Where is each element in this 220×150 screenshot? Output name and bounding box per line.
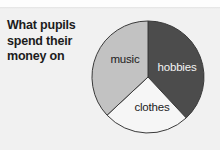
page-top-shadow bbox=[0, 7, 220, 9]
pie-slices bbox=[92, 21, 204, 133]
chart-title-line-1: What pupils bbox=[7, 18, 91, 34]
chart-screenshot: What pupils spend their money on hobbies… bbox=[0, 0, 220, 150]
pie-label-hobbies: hobbies bbox=[158, 61, 197, 73]
pie-label-clothes: clothes bbox=[134, 101, 169, 113]
page-top-margin bbox=[0, 0, 220, 7]
chart-title-line-2: spend their bbox=[7, 34, 91, 50]
chart-title: What pupils spend their money on bbox=[7, 18, 91, 65]
pie-chart-svg: hobbies clothes music bbox=[88, 16, 212, 142]
pie-chart: hobbies clothes music bbox=[88, 16, 212, 142]
chart-title-line-3: money on bbox=[7, 49, 91, 65]
pie-label-music: music bbox=[110, 53, 139, 65]
